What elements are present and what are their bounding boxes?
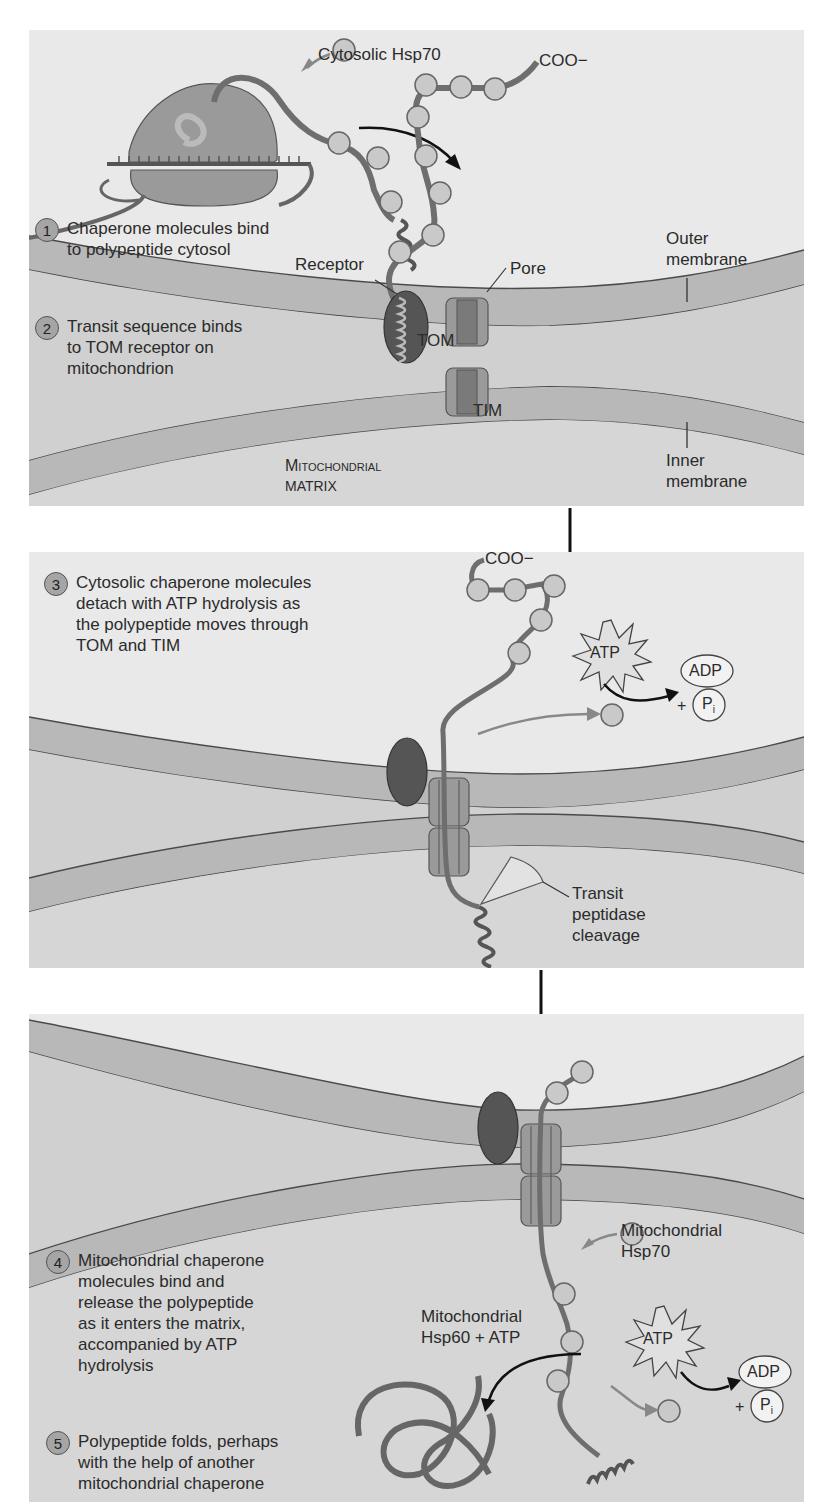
inner-membrane-label: Inner membrane [666,450,747,492]
step-4: 4 Mitochondrial chaperone molecules bind… [46,1250,264,1376]
panel-step-1-2: Cytosolic Hsp70 COO− Receptor Pore TOM T… [29,30,804,506]
atp-label: ATP [590,642,620,663]
panel-step-4-5: Mitochondrial Hsp70 Mitochondrial Hsp60 … [29,1014,804,1502]
mitochondrial-hsp60-label: Mitochondrial Hsp60 + ATP [421,1306,522,1348]
tom-label: TOM [417,330,454,351]
step-2: 2 Transit sequence binds to TOM receptor… [35,316,242,379]
pi-subscript: i [713,704,715,715]
step-5: 5 Polypeptide folds, perhaps with the he… [46,1431,278,1494]
step-number-badge: 1 [35,218,59,242]
pi-symbol: P [702,695,713,712]
step-3: 3 Cytosolic chaperone molecules detach w… [44,572,311,656]
adp-label: ADP [747,1361,780,1382]
tim-label: TIM [473,400,502,421]
outer-membrane-label: Outer membrane [666,228,747,270]
matrix-label-line1: Mitochondrial [285,455,381,476]
cytosolic-hsp70-label: Cytosolic Hsp70 [318,44,441,65]
c-terminus-label: COO− [539,50,588,71]
step-text: Polypeptide folds, perhaps with the help… [78,1431,278,1494]
plus-sign: + [735,1396,744,1417]
panel-step-3: COO− ATP ADP + Pi Transit peptidase clea… [29,552,804,968]
step-number-badge: 3 [44,572,68,596]
atp-label: ATP [643,1328,673,1349]
step-1: 1 Chaperone molecules bind to polypeptid… [35,218,269,260]
c-terminus-label: COO− [485,548,534,569]
pi-label: Pi [702,693,715,720]
pi-label: Pi [760,1394,773,1421]
pore-label: Pore [510,258,546,279]
step-text: Chaperone molecules bind to polypeptide … [67,218,269,260]
step-number-badge: 2 [35,316,59,340]
pi-subscript: i [771,1405,773,1416]
mitochondrial-hsp70-label: Mitochondrial Hsp70 [621,1220,722,1262]
pi-symbol: P [760,1396,771,1413]
plus-sign: + [677,695,686,716]
step-number-badge: 5 [46,1431,70,1455]
step-number-badge: 4 [46,1250,70,1274]
receptor-label: Receptor [295,254,364,275]
step-text: Cytosolic chaperone molecules detach wit… [76,572,311,656]
ribosome-icon [29,84,312,238]
matrix-label-line2: MATRIX [285,476,337,497]
step-text: Transit sequence binds to TOM receptor o… [67,316,242,379]
step-text: Mitochondrial chaperone molecules bind a… [78,1250,264,1376]
adp-label: ADP [689,660,722,681]
transit-peptidase-label: Transit peptidase cleavage [572,883,646,946]
